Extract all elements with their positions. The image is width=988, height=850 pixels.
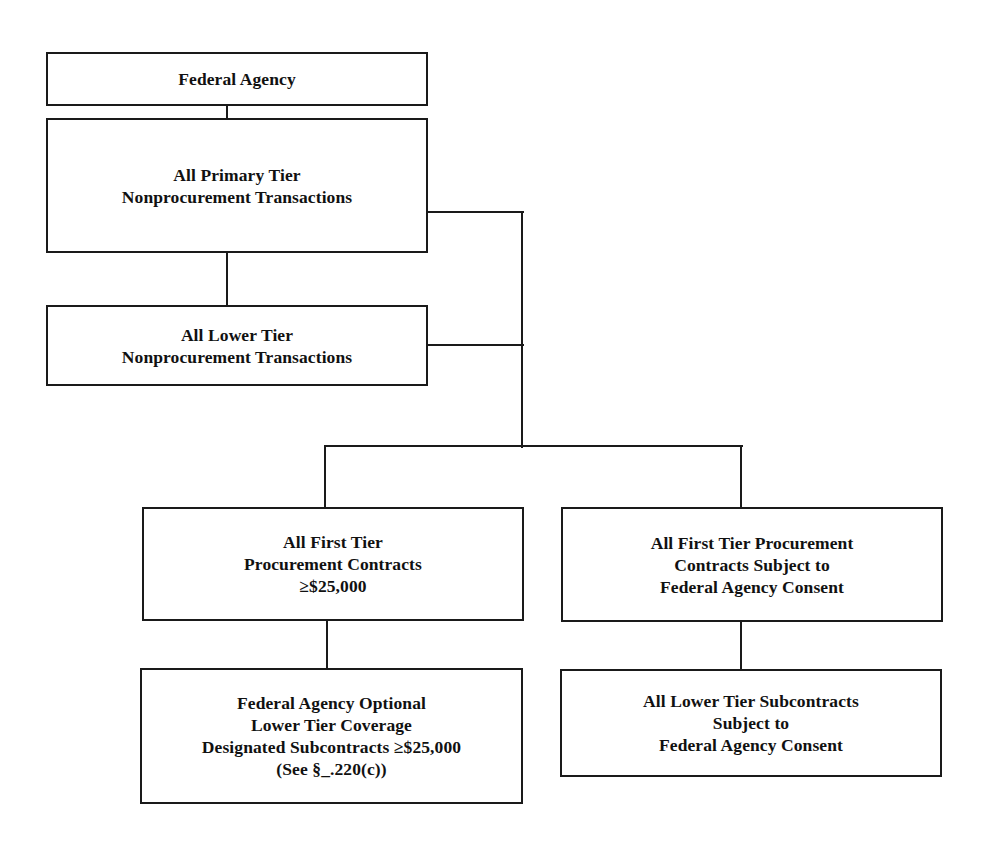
connector-branch-right (740, 445, 742, 509)
node-label: (See §_.220(c)) (276, 758, 386, 780)
connector-procurement-to-optional (326, 620, 328, 669)
node-label: Federal Agency Consent (659, 734, 843, 756)
node-lower-tier-subcontracts: All Lower Tier Subcontracts Subject to F… (560, 669, 942, 777)
node-label: Contracts Subject to (674, 554, 830, 576)
connector-lower-right (427, 344, 524, 346)
connector-branch-left (324, 445, 326, 509)
node-federal-agency: Federal Agency (46, 52, 428, 106)
node-label: Federal Agency (178, 68, 296, 90)
connector-trunk (521, 211, 523, 448)
node-label: Nonprocurement Transactions (122, 186, 352, 208)
node-label: Subject to (713, 712, 789, 734)
connector-branch-bar (324, 445, 743, 447)
node-label: All First Tier (283, 531, 383, 553)
node-label: Federal Agency Consent (660, 576, 844, 598)
connector-primary-right (427, 211, 524, 213)
node-label: ≥$25,000 (299, 575, 366, 597)
node-label: Lower Tier Coverage (251, 714, 412, 736)
node-first-tier-consent: All First Tier Procurement Contracts Sub… (561, 507, 943, 622)
node-label: All Primary Tier (173, 164, 300, 186)
connector-consent-to-subcontracts (740, 621, 742, 670)
node-label: All First Tier Procurement (651, 532, 854, 554)
node-label: Federal Agency Optional (237, 692, 426, 714)
node-label: Designated Subcontracts ≥$25,000 (202, 736, 461, 758)
node-optional-coverage: Federal Agency Optional Lower Tier Cover… (140, 668, 523, 804)
node-label: All Lower Tier Subcontracts (643, 690, 859, 712)
node-label: Nonprocurement Transactions (122, 346, 352, 368)
node-first-tier-procurement: All First Tier Procurement Contracts ≥$2… (142, 507, 524, 621)
node-primary-tier: All Primary Tier Nonprocurement Transact… (46, 118, 428, 253)
connector-primary-to-lower (226, 252, 228, 307)
node-label: Procurement Contracts (244, 553, 422, 575)
node-lower-tier: All Lower Tier Nonprocurement Transactio… (46, 305, 428, 386)
node-label: All Lower Tier (181, 324, 293, 346)
